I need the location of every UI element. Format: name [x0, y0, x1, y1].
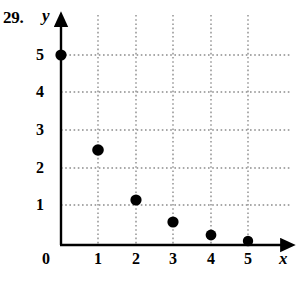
gridlines-horizontal — [61, 55, 290, 205]
x-tick-label-2: 2 — [126, 250, 146, 268]
data-points — [55, 49, 253, 246]
x-tick-label-5: 5 — [238, 250, 258, 268]
y-tick-label-3: 3 — [26, 121, 44, 139]
data-point — [206, 230, 217, 241]
plot-canvas — [0, 0, 305, 284]
data-point — [167, 216, 178, 227]
data-point — [243, 236, 253, 246]
x-axis-label: x — [279, 250, 288, 268]
y-tick-label-1: 1 — [26, 196, 44, 214]
x-tick-label-0: 0 — [36, 250, 56, 268]
scatter-plot-figure: 29. — [0, 0, 305, 284]
y-axis-label: y — [42, 7, 50, 25]
data-point — [130, 194, 141, 205]
x-tick-label-1: 1 — [88, 250, 108, 268]
data-point — [55, 49, 66, 60]
y-tick-label-5: 5 — [26, 46, 44, 64]
data-point — [92, 144, 104, 156]
y-tick-label-2: 2 — [26, 159, 44, 177]
x-tick-label-4: 4 — [201, 250, 221, 268]
x-tick-label-3: 3 — [163, 250, 183, 268]
y-tick-label-4: 4 — [26, 83, 44, 101]
